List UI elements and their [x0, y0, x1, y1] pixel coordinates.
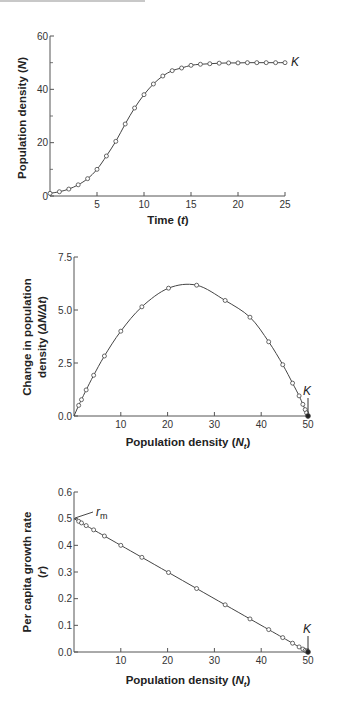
data-point: [198, 62, 202, 66]
data-point: [102, 534, 106, 538]
x-tick-label: 5: [94, 199, 100, 210]
data-point: [297, 394, 301, 398]
y-tick-label: 2.5: [58, 358, 72, 369]
x-tick-label: 20: [162, 419, 174, 430]
data-point: [77, 403, 81, 407]
data-point: [76, 183, 80, 187]
carrying-capacity-point: [306, 650, 311, 655]
x-tick-label: 40: [256, 419, 268, 430]
figure: 5101520250204060 K Time (t) Population d…: [0, 0, 337, 713]
chart-growth-vs-density: 10203040500.02.55.07.5 K Population dens…: [21, 252, 314, 452]
data-point: [161, 74, 165, 78]
x-tick-label: 10: [115, 419, 127, 430]
chart2-series: [74, 283, 310, 418]
data-point: [223, 603, 227, 607]
data-point: [123, 122, 127, 126]
data-point: [67, 187, 71, 191]
data-point: [195, 283, 199, 287]
data-point: [223, 298, 227, 302]
data-point: [167, 286, 171, 290]
data-point: [102, 354, 106, 358]
x-tick-label: 50: [302, 655, 314, 666]
data-point: [140, 555, 144, 559]
data-point: [92, 528, 96, 532]
y-tick-label: 0.1: [58, 620, 72, 631]
data-point: [151, 82, 155, 86]
data-point: [291, 641, 295, 645]
chart3-rm-pointer: [75, 512, 93, 518]
y-tick-label: 60: [37, 31, 49, 42]
data-point: [92, 373, 96, 377]
x-tick-label: 30: [209, 655, 221, 666]
data-point: [79, 521, 83, 525]
x-tick-label: 10: [115, 655, 127, 666]
data-point: [236, 61, 240, 65]
data-point: [208, 62, 212, 66]
data-point: [140, 305, 144, 309]
y-tick-label: 40: [37, 84, 49, 95]
data-point: [217, 61, 221, 65]
chart3-x-axis-label: Population density (Nt): [126, 674, 251, 689]
data-point: [119, 329, 123, 333]
series-line: [50, 63, 285, 194]
x-tick-label: 20: [162, 655, 174, 666]
chart3-rm-label: rm: [96, 505, 108, 521]
y-tick-label: 0.0: [58, 647, 72, 658]
data-point: [301, 402, 305, 406]
data-point: [264, 61, 268, 65]
data-point: [189, 63, 193, 67]
data-point: [170, 69, 174, 73]
chart3-y-axis-label-line2: (r): [36, 566, 48, 578]
data-point: [119, 543, 123, 547]
y-tick-label: 0.0: [58, 411, 72, 422]
chart2-axes: 10203040500.02.55.07.5: [58, 252, 314, 431]
x-tick-label: 50: [302, 419, 314, 430]
series-line: [74, 284, 308, 416]
data-point: [255, 61, 259, 65]
data-point: [167, 571, 171, 575]
y-tick-label: 7.5: [58, 252, 72, 263]
data-point: [84, 524, 88, 528]
chart1-axes: 5101520250204060: [37, 31, 291, 211]
y-tick-label: 0: [42, 191, 48, 202]
chart1-series: [48, 61, 287, 196]
data-point: [283, 61, 287, 65]
chart1-y-axis-label: Population density (N): [16, 57, 28, 179]
data-point: [274, 61, 278, 65]
x-tick-label: 25: [279, 199, 291, 210]
data-point: [86, 177, 90, 181]
data-point: [180, 66, 184, 70]
chart3-k-label: K: [303, 622, 312, 636]
chart1-x-axis-label: Time (t): [147, 214, 189, 226]
x-tick-label: 40: [256, 655, 268, 666]
data-point: [297, 645, 301, 649]
chart1-k-label: K: [291, 55, 300, 69]
data-point: [267, 628, 271, 632]
data-point: [227, 61, 231, 65]
series-line: [74, 519, 308, 652]
data-point: [133, 106, 137, 110]
data-point: [195, 587, 199, 591]
chart-per-capita-rate-vs-density: 10203040500.00.10.20.30.40.50.6 rm K Pop…: [21, 487, 314, 690]
chart2-y-axis-label-line1: Change in population: [21, 278, 33, 396]
data-point: [114, 139, 118, 143]
data-point: [291, 381, 295, 385]
data-point: [48, 191, 52, 195]
x-tick-label: 20: [232, 199, 244, 210]
chart2-k-label: K: [303, 384, 312, 398]
carrying-capacity-point: [306, 414, 311, 419]
data-point: [281, 636, 285, 640]
data-point: [248, 617, 252, 621]
data-point: [245, 61, 249, 65]
data-point: [104, 154, 108, 158]
y-tick-label: 5.0: [58, 305, 72, 316]
data-point: [95, 167, 99, 171]
y-tick-label: 0.5: [58, 513, 72, 524]
chart-population-vs-time: 5101520250204060 K Time (t) Population d…: [16, 31, 300, 227]
data-point: [142, 93, 146, 97]
y-tick-label: 20: [37, 137, 49, 148]
y-tick-label: 0.3: [58, 567, 72, 578]
data-point: [79, 398, 83, 402]
data-point: [281, 363, 285, 367]
y-tick-label: 0.6: [58, 487, 72, 498]
